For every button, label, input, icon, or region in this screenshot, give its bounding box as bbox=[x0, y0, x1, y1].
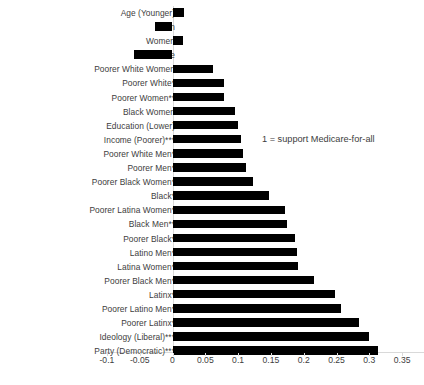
bar-row: Men bbox=[0, 20, 424, 34]
category-label: Women bbox=[146, 34, 175, 48]
x-axis-ticks: -0.1-0.0500.050.10.150.20.250.30.35 bbox=[0, 353, 424, 373]
bar-row: Latina Women* bbox=[0, 260, 424, 274]
bar bbox=[173, 107, 236, 115]
bar bbox=[173, 177, 253, 185]
bar-rows: Age (Younger)MenWomenWhitePoorer White W… bbox=[0, 6, 424, 358]
bar-row: Poorer Latinx* bbox=[0, 316, 424, 330]
bar-row: Poorer Latina Women* bbox=[0, 203, 424, 217]
bar-row: Education (Lower) bbox=[0, 119, 424, 133]
bar-row: Poorer Black Women* bbox=[0, 175, 424, 189]
bar bbox=[173, 135, 242, 143]
chart-annotation: 1 = support Medicare-for-all bbox=[262, 134, 375, 144]
bar bbox=[173, 206, 286, 214]
category-label: Poorer Latinx* bbox=[121, 316, 175, 330]
category-label: Poorer Black Women* bbox=[92, 175, 175, 189]
category-label: Age (Younger) bbox=[121, 6, 175, 20]
bar bbox=[173, 191, 269, 199]
bar bbox=[173, 332, 370, 340]
bar bbox=[173, 248, 298, 256]
plot-area: Age (Younger)MenWomenWhitePoorer White W… bbox=[0, 0, 424, 352]
x-tick-label: -0.1 bbox=[99, 355, 114, 365]
x-tick-label: 0.2 bbox=[298, 355, 310, 365]
bar-row: Poorer Women** bbox=[0, 91, 424, 105]
x-tick-label: 0.3 bbox=[363, 355, 375, 365]
category-label: Poorer White* bbox=[122, 76, 175, 90]
category-label: Poorer Black* bbox=[123, 232, 175, 246]
category-label: Poorer Latino Men* bbox=[102, 302, 175, 316]
bar-row: Black* bbox=[0, 189, 424, 203]
category-label: Poorer Men* bbox=[127, 161, 175, 175]
bar bbox=[173, 36, 183, 44]
category-label: Ideology (Liberal)*** bbox=[99, 330, 175, 344]
bar-row: White bbox=[0, 48, 424, 62]
category-label: Income (Poorer)*** bbox=[104, 133, 175, 147]
bar bbox=[173, 304, 342, 312]
bar-row: Ideology (Liberal)*** bbox=[0, 330, 424, 344]
category-label: Latinx* bbox=[149, 288, 175, 302]
bar-row: Poorer White Women bbox=[0, 62, 424, 76]
category-label: Black Men** bbox=[129, 217, 175, 231]
category-label: Black Women bbox=[123, 105, 175, 119]
bar-row: Latino Men* bbox=[0, 246, 424, 260]
bar bbox=[173, 290, 335, 298]
bar bbox=[173, 79, 224, 87]
x-tick-label: 0 bbox=[170, 355, 175, 365]
category-label: Latina Women* bbox=[117, 260, 175, 274]
bar bbox=[173, 65, 213, 73]
bar-row: Poorer Men* bbox=[0, 161, 424, 175]
bar-row: Latinx* bbox=[0, 288, 424, 302]
x-tick-label: -0.05 bbox=[130, 355, 150, 365]
bar-row: Poorer Black* bbox=[0, 232, 424, 246]
category-label: Poorer Latina Women* bbox=[89, 203, 175, 217]
bar bbox=[173, 234, 295, 242]
bar-row: Black Men** bbox=[0, 217, 424, 231]
x-tick-label: 0.1 bbox=[232, 355, 244, 365]
bar-row: Poorer Black Men* bbox=[0, 274, 424, 288]
bar-row: Poorer White Men* bbox=[0, 147, 424, 161]
horizontal-bar-chart: Age (Younger)MenWomenWhitePoorer White W… bbox=[0, 0, 424, 385]
x-tick-label: 0.05 bbox=[197, 355, 214, 365]
category-label: Poorer Women** bbox=[112, 91, 175, 105]
category-label: Education (Lower) bbox=[106, 119, 175, 133]
bar-row: Age (Younger) bbox=[0, 6, 424, 20]
bar-row: Poorer Latino Men* bbox=[0, 302, 424, 316]
bar bbox=[173, 163, 246, 171]
category-label: Poorer White Women bbox=[94, 62, 175, 76]
category-label: Latino Men* bbox=[130, 246, 175, 260]
category-label: Poorer Black Men* bbox=[104, 274, 175, 288]
x-tick-label: 0.25 bbox=[328, 355, 345, 365]
bar-row: Black Women bbox=[0, 105, 424, 119]
bar bbox=[155, 22, 172, 30]
bar-row: Poorer White* bbox=[0, 76, 424, 90]
x-tick-label: 0.35 bbox=[394, 355, 411, 365]
bar bbox=[173, 220, 288, 228]
bar bbox=[173, 276, 314, 284]
category-label: Black* bbox=[151, 189, 175, 203]
bar bbox=[173, 262, 298, 270]
bar bbox=[173, 318, 360, 326]
bar bbox=[134, 50, 172, 58]
category-label: Poorer White Men* bbox=[103, 147, 175, 161]
bar bbox=[173, 121, 239, 129]
x-tick-label: 0.15 bbox=[263, 355, 280, 365]
bar bbox=[173, 149, 244, 157]
bar bbox=[173, 8, 185, 16]
bar bbox=[173, 93, 225, 101]
bar-row: Women bbox=[0, 34, 424, 48]
